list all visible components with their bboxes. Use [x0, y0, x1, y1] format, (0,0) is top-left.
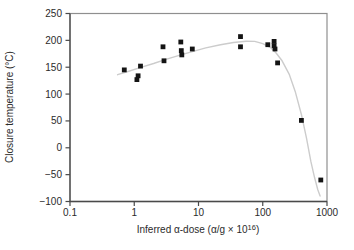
x-tick-label: 0.1 [63, 207, 77, 218]
y-tick-label: 200 [45, 35, 62, 46]
y-tick-label: 250 [45, 8, 62, 19]
data-point-marker [299, 118, 304, 123]
data-point-marker [138, 64, 143, 69]
y-tick-label: 50 [51, 115, 63, 126]
y-tick-label: −50 [45, 169, 62, 180]
x-tick-label: 100 [254, 207, 271, 218]
fitted-trend-curve [118, 41, 321, 196]
data-point-marker [190, 47, 195, 52]
data-point-marker [162, 58, 167, 63]
x-axis-title-superscript: 16 [248, 223, 256, 232]
chart-canvas: 250200150100500−50−100 0.11101001000 Clo… [0, 0, 354, 250]
closure-temperature-vs-alpha-dose-chart: 250200150100500−50−100 0.11101001000 Clo… [0, 0, 354, 250]
data-point-marker [136, 73, 141, 78]
x-axis-title: Inferred α-dose (α/g × 1016) [137, 223, 259, 236]
data-point-marker [272, 39, 277, 44]
plot-frame [70, 14, 327, 202]
axis-lines [70, 14, 327, 202]
y-tick-label: 150 [45, 62, 62, 73]
y-axis-title: Closure temperature (°C) [4, 51, 15, 163]
y-tick-label: −100 [39, 196, 62, 207]
data-point-marker [273, 47, 278, 52]
data-point-marker [122, 68, 127, 73]
y-axis-ticks: 250200150100500−50−100 [39, 8, 70, 207]
y-tick-label: 0 [56, 142, 62, 153]
data-point-marker [275, 61, 280, 66]
data-point-marker [238, 44, 243, 49]
y-tick-label: 100 [45, 89, 62, 100]
data-point-marker [161, 44, 166, 49]
trend-curve-group [118, 41, 321, 196]
data-point-marker [265, 42, 270, 47]
x-axis-title-close: ) [256, 224, 259, 235]
x-tick-label: 10 [193, 207, 205, 218]
data-point-marker [238, 34, 243, 39]
data-points-group [122, 34, 323, 182]
data-point-marker [318, 178, 323, 183]
data-point-marker [178, 40, 183, 45]
x-tick-label: 1000 [316, 207, 339, 218]
x-axis-title-main: Inferred α-dose (α/g × 10 [137, 224, 248, 235]
data-point-marker [179, 53, 184, 58]
x-axis-ticks: 0.11101001000 [63, 202, 339, 219]
x-tick-label: 1 [131, 207, 137, 218]
data-point-marker [179, 48, 184, 53]
